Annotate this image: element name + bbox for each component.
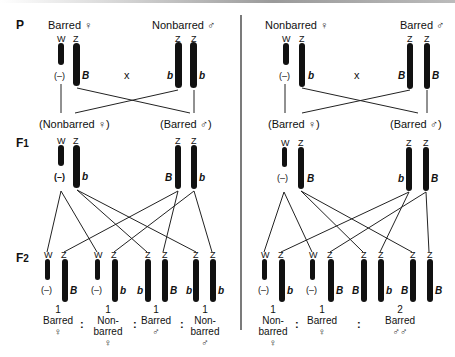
allele-label: (–) xyxy=(279,70,290,82)
allele-label: (–) xyxy=(54,171,65,183)
chromosome-label: W xyxy=(94,249,103,261)
allele-label: B xyxy=(336,285,343,297)
chromosome-label: Z xyxy=(61,249,67,261)
allele-label: B xyxy=(70,285,77,297)
chromosome-label: W xyxy=(44,249,53,261)
ratio-colon: : xyxy=(357,318,361,330)
right-f1-male-label: (Barred ♂) xyxy=(390,118,442,130)
chromosome-z xyxy=(62,259,68,302)
generation-f2-label: F2 xyxy=(16,252,29,265)
chromosome-label: W xyxy=(57,33,66,45)
chromosome-z xyxy=(112,259,118,302)
allele-label: b xyxy=(386,285,392,297)
left-f1-male-label: (Barred ♂) xyxy=(160,118,212,130)
right-f1-female-label: (Barred ♀) xyxy=(268,118,320,130)
allele-label: (–) xyxy=(41,284,52,296)
chromosome-z xyxy=(378,259,384,302)
allele-label: b xyxy=(398,173,404,185)
allele-label: (–) xyxy=(277,172,288,184)
chromosome-w xyxy=(58,145,64,166)
chromosome-z xyxy=(193,259,199,302)
allele-label: B xyxy=(82,70,89,82)
chromosome-label: Z xyxy=(278,249,284,261)
chromosome-label: Z xyxy=(406,137,412,149)
allele-label: (–) xyxy=(54,70,65,82)
chromosome-w xyxy=(310,259,315,280)
chromosome-label: Z xyxy=(175,135,181,147)
chromosome-z xyxy=(162,259,168,302)
allele-label: B xyxy=(431,173,438,185)
chromosome-z xyxy=(191,145,197,189)
allele-label: B xyxy=(165,172,172,184)
chromosome-label: W xyxy=(261,249,270,261)
allele-label: b xyxy=(199,172,205,184)
chromosome-label: Z xyxy=(193,249,199,261)
chromosome-z xyxy=(423,147,429,191)
chromosome-label: Z xyxy=(145,249,151,261)
chromosome-label: W xyxy=(309,249,318,261)
chromosome-z xyxy=(424,43,430,89)
f2-ratio-nonbarred-female: 1 Non- barred ♀ xyxy=(88,304,128,348)
f2-ratio-nonbarred-male: 1 Non- barred ♂ xyxy=(185,304,225,348)
cross-symbol: x xyxy=(124,69,130,81)
allele-label: (–) xyxy=(258,284,269,296)
chromosome-z xyxy=(361,259,367,302)
chromosome-label: Z xyxy=(210,249,216,261)
allele-label: b xyxy=(120,285,126,297)
chromosome-label: Z xyxy=(191,33,197,45)
chromosome-z xyxy=(279,259,285,302)
chromosome-z xyxy=(427,259,433,302)
allele-label: (–) xyxy=(91,284,102,296)
left-p-female-label: Barred ♀ xyxy=(48,19,92,31)
chromosome-label: Z xyxy=(327,249,333,261)
chromosome-label: Z xyxy=(424,33,430,45)
generation-p-label: P xyxy=(16,19,24,31)
allele-label: b xyxy=(287,285,293,297)
chromosome-label: Z xyxy=(410,249,416,261)
chromosome-w xyxy=(262,259,267,280)
allele-label: b xyxy=(137,285,143,297)
chromosome-label: Z xyxy=(423,137,429,149)
f2-ratio-barred-male: 1 Barred ♂ xyxy=(136,304,176,337)
chromosome-z xyxy=(406,147,412,191)
allele-label: B xyxy=(170,285,177,297)
chromosome-w xyxy=(282,147,287,167)
chromosome-label: Z xyxy=(299,33,305,45)
f2-ratio-barred-males: 2 Barred ♂♂ xyxy=(375,304,425,337)
chromosome-label: Z xyxy=(175,33,181,45)
allele-label: B xyxy=(307,173,314,185)
chromosome-z xyxy=(299,43,305,87)
allele-label: B xyxy=(352,285,359,297)
chromosome-w xyxy=(95,259,100,280)
allele-label: b xyxy=(167,70,173,82)
chromosome-w xyxy=(58,43,64,65)
allele-label: b xyxy=(82,171,88,183)
ratio-colon: : xyxy=(180,318,184,330)
chromosome-z xyxy=(175,42,182,88)
right-p-female-label: Nonbarred ♀ xyxy=(265,19,328,31)
left-p-male-label: Nonbarred ♂ xyxy=(152,19,215,31)
allele-label: B xyxy=(401,285,408,297)
chromosome-label: Z xyxy=(378,249,384,261)
chromosome-label: W xyxy=(281,137,290,149)
chromosome-label: W xyxy=(57,135,66,147)
chromosome-z xyxy=(407,43,413,89)
chromosome-z xyxy=(410,259,416,302)
chromosome-z xyxy=(73,145,80,188)
chromosome-label: Z xyxy=(298,137,304,149)
f2-ratio-barred-female: 1 Barred ♀ xyxy=(302,304,342,337)
chromosome-z xyxy=(73,43,80,86)
chromosome-z xyxy=(175,145,181,189)
chromosome-z xyxy=(190,42,197,88)
chromosome-z xyxy=(298,147,304,189)
allele-label: (–) xyxy=(306,284,317,296)
chromosome-label: W xyxy=(282,33,291,45)
right-p-male-label: Barred ♂ xyxy=(400,19,444,31)
f2-ratio-nonbarred-female: 1 Non- barred ♀ xyxy=(253,304,293,348)
chromosome-label: Z xyxy=(361,249,367,261)
chromosome-label: Z xyxy=(162,249,168,261)
chromosome-z xyxy=(328,259,334,302)
chromosome-label: Z xyxy=(73,135,79,147)
chromosome-label: Z xyxy=(407,33,413,45)
chromosome-label: Z xyxy=(111,249,117,261)
